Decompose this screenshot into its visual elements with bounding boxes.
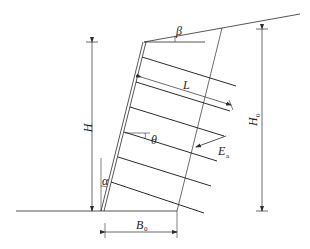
diagram-canvas: β L H H 0 θ E a α B 0 [0, 0, 310, 249]
B0-label: B 0 [136, 218, 148, 233]
theta-angle-arc [145, 133, 146, 138]
svg-text:E: E [217, 144, 226, 158]
H0-label: H 0 [246, 113, 262, 127]
H-label: H [81, 122, 95, 133]
L-extension-line [229, 100, 233, 110]
svg-text:0: 0 [144, 225, 148, 233]
Ea-label: E a [217, 144, 230, 160]
beta-label: β [175, 24, 182, 38]
back-boundary-line [177, 28, 222, 211]
soil-nails [111, 57, 236, 213]
svg-text:B: B [136, 218, 144, 232]
alpha-label: α [102, 174, 109, 188]
theta-label: θ [151, 133, 157, 147]
svg-text:0: 0 [254, 113, 262, 117]
svg-text:a: a [226, 152, 230, 160]
L-label: L [182, 78, 190, 92]
